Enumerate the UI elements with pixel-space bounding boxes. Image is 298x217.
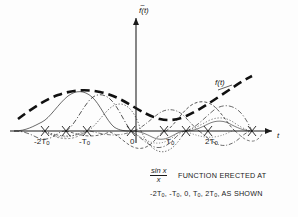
fraction-denominator: x (150, 176, 167, 184)
tick-sub: 0 (171, 140, 174, 146)
tick-sub: 0 (87, 140, 90, 146)
plot-canvas (0, 0, 298, 217)
tick-label-origin: 0 (130, 138, 135, 146)
x-axis-label: t (277, 132, 279, 140)
y-axis-label: ~ f(t) (139, 7, 149, 15)
tick-label-minus-T0: -T0 (79, 138, 90, 146)
tick-sub: 0 (46, 140, 49, 146)
envelope-label: f(t) (215, 79, 225, 87)
tick-label-minus-2T0: -2T0 (34, 138, 50, 146)
caption-line-2: -2T0, -T0, 0, T0, 2T0, AS SHOWN (150, 190, 263, 198)
caption-fraction-sinx-over-x: sin x x (150, 167, 167, 184)
tick-sub: 0 (215, 140, 218, 146)
tick-label-2T0: 2T0 (205, 138, 218, 146)
tick-label-T0: T0 (166, 138, 174, 146)
caption-line-1: FUNCTION ERECTED AT (178, 172, 266, 179)
figure-sinc-interpolation: ~ f(t) t f(t) -2T0 -T0 0 T0 2T0 sin x x … (0, 0, 298, 217)
sinc-curve-zero (42, 104, 252, 152)
tilde-accent-icon: ~ (140, 2, 145, 10)
